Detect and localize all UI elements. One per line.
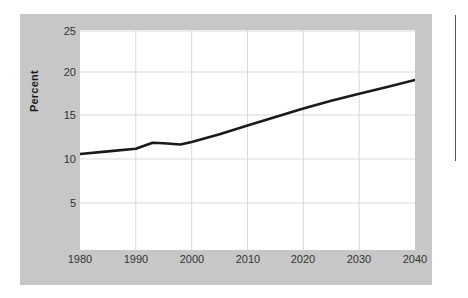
y-axis-title: Percent [28, 70, 40, 112]
vertical-gridlines [136, 30, 359, 250]
plot-svg [80, 30, 415, 250]
y-tick-5: 5 [48, 198, 76, 209]
y-tick-15: 15 [48, 110, 76, 121]
x-tick-2040: 2040 [385, 253, 445, 265]
plot-area [80, 30, 415, 250]
x-tick-2020: 2020 [273, 253, 333, 265]
y-tick-25: 25 [48, 26, 76, 37]
x-tick-1990: 1990 [106, 253, 166, 265]
x-tick-2010: 2010 [218, 253, 278, 265]
y-tick-20: 20 [48, 67, 76, 78]
x-axis-tick-labels: 1980 1990 2000 2010 2020 2030 2040 [0, 253, 468, 269]
x-tick-2000: 2000 [162, 253, 222, 265]
figure-root: Percent 25 20 15 10 5 [0, 0, 468, 298]
y-tick-10: 10 [48, 154, 76, 165]
column-divider-rule [455, 15, 456, 161]
x-tick-2030: 2030 [329, 253, 389, 265]
x-tick-1980: 1980 [50, 253, 110, 265]
